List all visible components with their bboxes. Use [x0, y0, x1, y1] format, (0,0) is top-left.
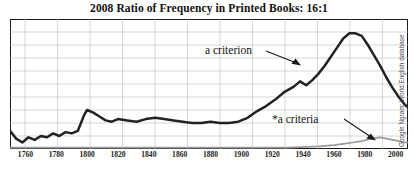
x-tick-label: 1760 [18, 150, 33, 159]
annotation-a-criteria: *a criteria [272, 113, 318, 125]
attribution-text: Google Ngram: World English database [398, 35, 405, 148]
leader-a-criterion [266, 51, 301, 66]
x-tick-label: 1780 [49, 150, 64, 159]
x-tick-label: 1920 [265, 150, 280, 159]
page-title: 2008 Ratio of Frequency in Printed Books… [0, 0, 418, 16]
x-tick-label: 2000 [388, 150, 403, 159]
x-tick-label: 1980 [357, 150, 372, 159]
x-tick-label: 1960 [326, 150, 341, 159]
x-tick-label: 1800 [80, 150, 95, 159]
annotation-a-criterion: a criterion [205, 44, 252, 56]
x-tick-label: 1820 [110, 150, 125, 159]
x-axis-tick-labels: 1760178018001820184018601880190019201940… [0, 150, 418, 164]
x-tick-label: 1900 [234, 150, 249, 159]
annotation-leaders [10, 19, 408, 149]
chart-screenshot: 2008 Ratio of Frequency in Printed Books… [0, 0, 418, 172]
plot-area [10, 19, 408, 149]
x-tick-label: 1840 [141, 150, 156, 159]
x-tick-label: 1860 [172, 150, 187, 159]
x-tick-label: 1880 [203, 150, 218, 159]
leader-a-criteria [344, 119, 376, 141]
x-tick-label: 1940 [296, 150, 311, 159]
attribution: Google Ngram: World English database [403, 19, 415, 149]
